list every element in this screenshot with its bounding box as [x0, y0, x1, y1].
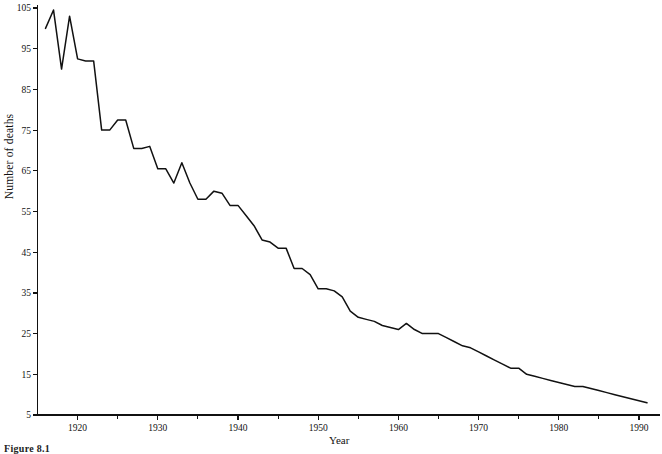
- x-tick-label: 1980: [549, 423, 568, 433]
- y-tick-label: 105: [17, 3, 32, 13]
- y-tick-label: 35: [22, 288, 32, 298]
- y-axis-title: Number of deaths: [3, 113, 15, 199]
- y-tick-label: 5: [26, 410, 31, 420]
- x-tick-label: 1970: [469, 423, 488, 433]
- tick-marks: [33, 8, 639, 420]
- axes: [38, 5, 661, 415]
- y-tick-label: 45: [22, 248, 32, 258]
- x-tick-label: 1920: [68, 423, 87, 433]
- axis-titles: YearNumber of deaths: [3, 113, 350, 446]
- y-tick-label: 75: [22, 126, 32, 136]
- y-tick-label: 85: [22, 85, 32, 95]
- y-tick-label: 65: [22, 166, 32, 176]
- x-tick-label: 1960: [389, 423, 408, 433]
- y-tick-label: 15: [22, 370, 32, 380]
- y-tick-label: 95: [22, 44, 32, 54]
- figure-caption: Figure 8.1: [4, 443, 50, 454]
- y-tick-label: 55: [22, 207, 32, 217]
- series-line-deaths: [46, 10, 647, 403]
- x-tick-label: 1950: [309, 423, 328, 433]
- y-tick-label: 25: [22, 329, 32, 339]
- x-tick-label: 1930: [148, 423, 167, 433]
- x-tick-label: 1940: [228, 423, 247, 433]
- data-series: [46, 10, 647, 403]
- tick-labels: 5152535455565758595105192019301940195019…: [17, 3, 649, 432]
- x-axis-title: Year: [329, 434, 350, 446]
- x-tick-label: 1990: [629, 423, 648, 433]
